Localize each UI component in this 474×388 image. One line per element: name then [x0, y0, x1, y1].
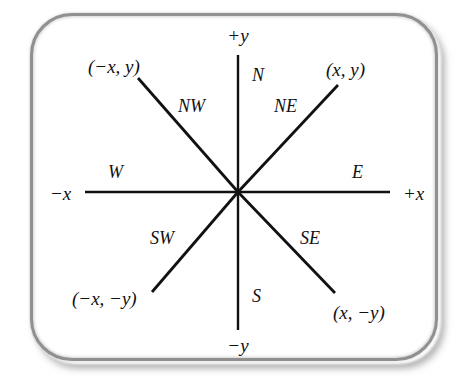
compass-label-southwest: SW [150, 229, 174, 247]
axis-label-x-positive: +x [403, 184, 424, 203]
compass-label-northeast: NE [274, 97, 297, 115]
axis-label-y-positive: +y [227, 26, 248, 45]
coordinate-label-quadrant-1: (x, y) [326, 60, 365, 79]
figure-canvas: +y −y +x −x N S E W NE NW SE SW (x, y) (… [0, 0, 474, 388]
compass-label-southeast: SE [300, 229, 320, 247]
compass-label-northwest: NW [178, 97, 205, 115]
compass-label-west: W [108, 163, 123, 181]
compass-label-north: N [252, 66, 264, 84]
axis-label-x-negative: −x [50, 184, 71, 203]
axis-label-y-negative: −y [227, 336, 248, 355]
compass-label-south: S [252, 287, 261, 305]
coordinate-label-quadrant-3: (−x, −y) [72, 289, 137, 308]
compass-label-east: E [352, 163, 363, 181]
coordinate-label-quadrant-2: (−x, y) [88, 57, 140, 76]
coordinate-label-quadrant-4: (x, −y) [333, 303, 385, 322]
ray-southeast [238, 192, 335, 293]
